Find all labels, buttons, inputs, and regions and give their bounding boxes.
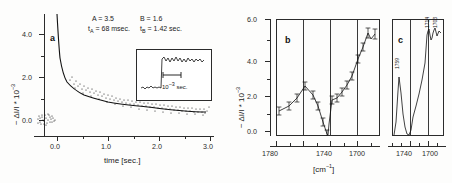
- panel-c-xtick-0: [410, 141, 411, 146]
- panel-bc-xlabel-pre: [cm: [313, 165, 326, 174]
- panel-a-xlabel: time [sec.]: [104, 157, 140, 165]
- panel-c-peak-label-3: 1703: [432, 17, 438, 28]
- figure-root: − ΔI/I * 10−3 0.0 2.0 4.0 0.0 1.0 2.0 3.…: [0, 0, 452, 183]
- inset-baseline-trace: [141, 86, 161, 89]
- panel-b-xtick-0: [276, 141, 277, 146]
- panel-bc-ytick-3: 6.0: [247, 16, 257, 23]
- panel-a-ytick-0: 0.0: [22, 117, 32, 124]
- inset-scale-unit: sec.: [175, 84, 188, 90]
- panel-a-xtick-0: 0.0: [50, 143, 60, 150]
- panel-c-xtick-1: [428, 141, 429, 146]
- panel-c-xtick-minor-1: [401, 143, 402, 146]
- panel-b-xtick-label-0: 1780: [262, 150, 278, 157]
- panel-b-errorbars: [277, 28, 378, 136]
- panel-a-ytick-2: 4.0: [22, 31, 32, 38]
- panel-a-ylabel-text: − ΔI/I * 10: [12, 90, 21, 125]
- panel-b-xtick-minor-0: [290, 143, 291, 146]
- panel-bc-yaxis: [270, 19, 271, 136]
- panel-b-xtick-minor-2: [344, 143, 345, 146]
- panel-b-plot: [276, 19, 380, 136]
- panel-a-inset-plot: [137, 50, 211, 100]
- panel-bc-ylabel: − ΔI/I * 10−3: [236, 87, 246, 128]
- panel-bc-ylabel-text: − ΔI/I * 10: [237, 93, 246, 128]
- panel-c-xtick-minor-2: [419, 143, 420, 146]
- panel-bc-ytick-minor-2: [267, 40, 270, 41]
- panel-c-xtick-minor-0: [392, 143, 393, 146]
- panel-bc-ytick-mark-2: [265, 61, 270, 62]
- panel-c-xtick-minor-3: [437, 143, 438, 146]
- panel-a-ylabel-exp: −3: [10, 84, 16, 90]
- panel-a-ytick-1: 2.0: [22, 74, 32, 81]
- panel-b-xtick-1: [303, 141, 304, 146]
- panel-bc-ytick-0: 0.0: [247, 128, 257, 135]
- panel-b-xtick-2: [330, 141, 331, 146]
- panel-b-xtick-minor-1: [317, 143, 318, 146]
- panel-a-xtick-1: 1.0: [101, 143, 111, 150]
- panel-b-trace: [279, 33, 375, 135]
- panel-c-plot: 1759 1714 1703: [392, 19, 444, 136]
- panel-a-baseline-scatter: [37, 113, 55, 125]
- panel-c-xtick-label-1: 1700: [422, 150, 438, 157]
- inset-plateau-trace: [162, 57, 204, 62]
- inset-scalebar-label: 10−3 sec.: [162, 82, 188, 90]
- panel-bc-ytick-minor-1: [267, 79, 270, 80]
- panel-c-peak-label-1: 1759: [394, 58, 400, 69]
- panel-c-peak-label-2: 1714: [424, 17, 430, 28]
- panel-bc-xlabel-post: ]: [332, 165, 334, 174]
- panel-a-ylabel: − ΔI/I * 10−3: [11, 84, 21, 125]
- panel-a-inset: 10−3 sec.: [136, 49, 212, 101]
- panel-b-xtick-3: [357, 141, 358, 146]
- panel-c-trace: [394, 28, 441, 135]
- panel-b-xaxis: [270, 146, 380, 147]
- panel-c-xtick-label-0: 1740: [396, 150, 412, 157]
- panel-bc-ylabel-exp: −3: [235, 87, 241, 93]
- panel-bc-ytick-2: 4.0: [247, 58, 257, 65]
- panel-c-xaxis: [388, 146, 446, 147]
- panel-bc-ytick-mark-0: [265, 131, 270, 132]
- panel-b-xtick-minor-3: [371, 143, 372, 146]
- inset-scale-pre: 10: [162, 84, 169, 90]
- panel-a-xtick-2: 2.0: [152, 143, 162, 150]
- panel-bc-ytick-mark-3: [265, 19, 270, 20]
- panel-b-xtick-label-1: 1740: [316, 150, 332, 157]
- panel-bc-ytick-1: 2.0: [247, 93, 257, 100]
- panel-bc-ytick-mark-1: [265, 96, 270, 97]
- panel-bc-ytick-minor-0: [267, 114, 270, 115]
- panel-a-xtick-3: 3.0: [203, 143, 213, 150]
- panel-b-xtick-label-2: 1700: [349, 150, 365, 157]
- panel-bc-xlabel: [cm−1]: [313, 164, 334, 174]
- inset-scalebar: [163, 72, 181, 78]
